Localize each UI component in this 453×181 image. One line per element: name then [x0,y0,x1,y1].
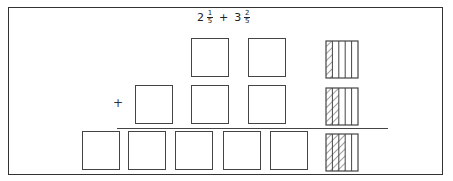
fraction-bar [325,40,359,83]
whole-box [191,85,229,124]
plus-sign: + [113,96,123,110]
whole-box [248,85,286,124]
whole-box [128,131,166,170]
whole-box [82,131,120,170]
whole-box [223,131,261,170]
whole-2: 3 [234,11,241,24]
fraction-bar [325,133,359,176]
whole-1: 2 [197,11,204,24]
fraction-2: 25 [244,10,250,25]
whole-box [270,131,308,170]
operator: + [219,11,228,24]
fraction-1: 15 [207,10,213,25]
fraction-bar [325,87,359,130]
whole-box [248,38,286,77]
problem-expression: 2 15 + 3 25 [197,10,250,25]
whole-box [191,38,229,77]
whole-box [135,85,173,124]
whole-box [175,131,213,170]
